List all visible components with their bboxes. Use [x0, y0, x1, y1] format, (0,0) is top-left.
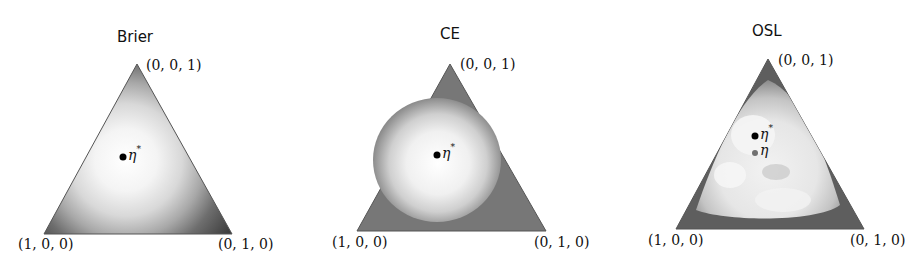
vertex-label-top: (0, 0, 1) [146, 57, 201, 73]
eta-label: η [760, 142, 768, 158]
vertex-label-bottom-left: (1, 0, 0) [648, 232, 703, 248]
eta-star-point [752, 133, 759, 140]
vertex-label-top: (0, 0, 1) [778, 52, 833, 68]
eta-star-point [120, 154, 127, 161]
star-superscript: * [136, 144, 141, 154]
vertex-label-bottom-left: (1, 0, 0) [332, 234, 387, 250]
eta-star-point [434, 152, 441, 159]
eta-star-label: η* [128, 146, 141, 163]
panel-title: OSL [752, 22, 782, 40]
vertex-label-bottom-right: (0, 1, 0) [218, 236, 273, 252]
star-superscript: * [768, 123, 773, 133]
eta-star-label: η* [760, 125, 773, 142]
star-superscript: * [450, 142, 455, 152]
eta-point [752, 150, 758, 156]
ce-panel: CE (0, 0, 1) (1, 0, 0) (0, 1, 0) η* [310, 0, 616, 277]
panel-title: Brier [117, 28, 153, 46]
osl-panel: OSL (0, 0, 1) (1, 0, 0) (0, 1, 0) η* η [618, 0, 918, 277]
vertex-label-bottom-right: (0, 1, 0) [850, 232, 905, 248]
panel-title: CE [440, 25, 460, 43]
eta-star-label: η* [442, 144, 455, 161]
vertex-label-bottom-left: (1, 0, 0) [18, 236, 73, 252]
brier-panel: Brier (0, 0, 1) (1, 0, 0) (0, 1, 0) η* [0, 0, 306, 277]
vertex-label-bottom-right: (0, 1, 0) [534, 234, 589, 250]
eta-symbol: η [760, 142, 768, 158]
vertex-label-top: (0, 0, 1) [460, 56, 515, 72]
